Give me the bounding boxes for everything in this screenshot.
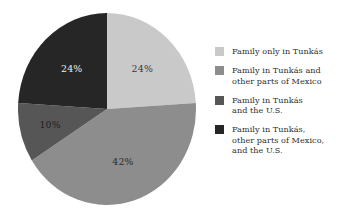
pie-slice-label-2: 10%: [39, 119, 60, 130]
legend-label-1: Family in Tunkás and other parts of Mexi…: [232, 65, 322, 86]
pie-slice-family-in-tunkas-other-parts-of-mexico-and-the-us[interactable]: [18, 13, 107, 109]
legend-item-family-in-tunkas-and-other-parts-of-mexico[interactable]: Family in Tunkás and other parts of Mexi…: [215, 65, 353, 86]
pie-slice-family-only-in-tunkas[interactable]: [107, 13, 196, 109]
legend-swatch-icon-0: [215, 47, 224, 56]
pie-slices: [18, 13, 196, 205]
pie-chart-plot-area: 24% 42% 10% 24%: [18, 13, 196, 205]
legend-label-0: Family only in Tunkás: [232, 46, 323, 56]
legend-swatch-icon-1: [215, 66, 224, 75]
legend-swatch-icon-3: [215, 125, 224, 134]
pie-chart-svg: 24% 42% 10% 24%: [18, 13, 196, 205]
pie-slice-label-0: 24%: [132, 63, 153, 74]
pie-slice-label-3: 24%: [61, 63, 82, 74]
pie-slice-label-1: 42%: [112, 156, 133, 167]
legend-item-family-in-tunkas-other-parts-of-mexico-and-the-us[interactable]: Family in Tunkás, other parts of Mexico,…: [215, 124, 353, 155]
pie-chart-figure: 24% 42% 10% 24% Family only in Tunkás Fa…: [0, 0, 355, 222]
legend-label-3: Family in Tunkás, other parts of Mexico,…: [232, 124, 324, 155]
chart-legend: Family only in Tunkás Family in Tunkás a…: [215, 46, 353, 155]
legend-label-2: Family in Tunkás and the U.S.: [232, 95, 303, 116]
legend-item-family-only-in-tunkas[interactable]: Family only in Tunkás: [215, 46, 353, 56]
legend-item-family-in-tunkas-and-the-us[interactable]: Family in Tunkás and the U.S.: [215, 95, 353, 116]
legend-swatch-icon-2: [215, 96, 224, 105]
